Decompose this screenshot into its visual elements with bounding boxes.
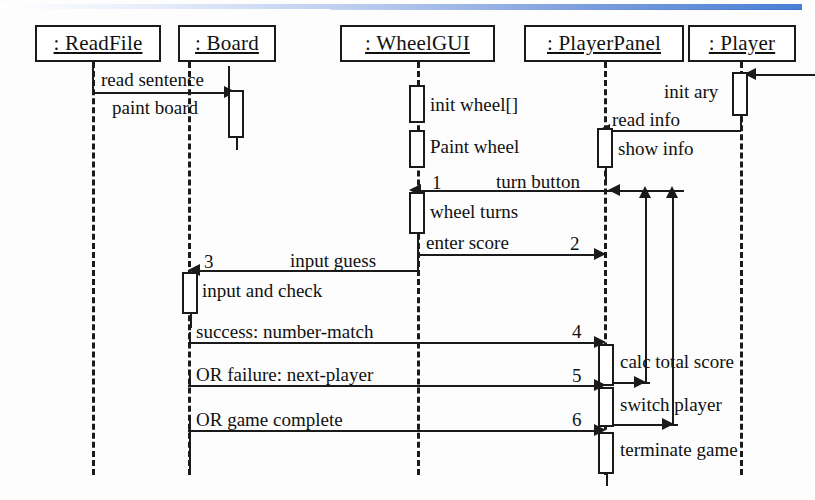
- object-label-wheelgui: : WheelGUI: [365, 33, 470, 54]
- activation-wheelgui-wheel-turns: [409, 192, 425, 234]
- message-arrow-enter-score: [417, 254, 597, 256]
- sequence-number-3: 3: [204, 252, 214, 271]
- message-arrow-or-failure-next-player: [188, 385, 597, 387]
- message-label-read-info: read info: [612, 110, 680, 129]
- message-label-terminate-game: terminate game: [620, 440, 738, 459]
- activation-playerpanel-switch-player: [598, 387, 614, 427]
- arrowhead-up-switch-return: [666, 186, 678, 198]
- readfile-stub-upper: [92, 66, 94, 90]
- activation-playerpanel-terminate-game: [598, 432, 614, 474]
- message-label-init-ary: init ary: [664, 82, 718, 101]
- message-label-paint-wheel: Paint wheel: [430, 137, 519, 156]
- message-label-or-failure-next-player: OR failure: next-player: [196, 365, 373, 384]
- board-msg4-stub: [189, 332, 191, 344]
- message-arrow-init-ary: [756, 74, 815, 76]
- object-label-readfile: : ReadFile: [54, 33, 143, 54]
- sequence-diagram-canvas: : ReadFile : Board : WheelGUI : PlayerPa…: [0, 0, 815, 500]
- message-arrow-paint-board: [92, 92, 226, 94]
- object-label-board: : Board: [195, 33, 259, 54]
- message-label-enter-score: enter score: [426, 233, 509, 252]
- arrowhead-up-calc-return: [639, 186, 651, 198]
- message-label-or-game-complete: OR game complete: [196, 410, 343, 429]
- playerpanel-show-info-tail: [605, 168, 607, 180]
- sequence-number-1: 1: [432, 173, 442, 192]
- object-box-playerpanel[interactable]: : PlayerPanel: [524, 25, 684, 62]
- lifeline-readfile: [92, 62, 95, 475]
- arrowhead-right-enter-score: [594, 248, 606, 260]
- return-arrow-switch-player-shaft: [672, 190, 674, 424]
- object-label-playerpanel: : PlayerPanel: [547, 33, 661, 54]
- sequence-number-2: 2: [570, 234, 580, 253]
- message-label-success-number-match: success: number-match: [196, 322, 373, 341]
- message-label-show-info: show info: [618, 139, 693, 158]
- message-label-input-and-check: input and check: [202, 281, 322, 300]
- sequence-number-4: 4: [572, 322, 582, 341]
- object-box-readfile[interactable]: : ReadFile: [35, 25, 161, 62]
- message-arrow-success-number-match: [188, 342, 597, 344]
- message-label-switch-player: switch player: [620, 395, 722, 414]
- object-label-player: : Player: [709, 33, 775, 54]
- activation-board-paint: [228, 90, 244, 138]
- playerpanel-terminate-tail: [606, 474, 608, 486]
- object-box-player[interactable]: : Player: [688, 25, 796, 62]
- message-label-init-wheel: init wheel[]: [430, 95, 518, 114]
- message-label-wheel-turns: wheel turns: [430, 202, 518, 221]
- slide-accent-line: [330, 9, 802, 10]
- message-label-input-guess: input guess: [290, 251, 376, 270]
- activation-playerpanel-show-info: [597, 128, 613, 168]
- return-arrow-calc-total-score-shaft: [645, 190, 647, 382]
- message-label-read-sentence: read sentence: [101, 70, 204, 89]
- board-input-check-tail: [190, 314, 192, 328]
- activation-board-input-check: [182, 272, 198, 314]
- wheelgui-input-guess-stub: [417, 254, 419, 270]
- sequence-number-6: 6: [572, 410, 582, 429]
- sequence-number-5: 5: [572, 366, 582, 385]
- activation-wheelgui-init: [409, 85, 425, 123]
- board-msg5-stub: [189, 375, 191, 387]
- arrowhead-left-return-join: [608, 184, 620, 196]
- object-box-wheelgui[interactable]: : WheelGUI: [340, 25, 495, 62]
- wheelgui-wheel-turns-tail: [417, 234, 419, 254]
- message-label-turn-button: turn button: [496, 172, 580, 191]
- activation-player-init-ary: [732, 72, 748, 116]
- object-box-board[interactable]: : Board: [178, 25, 276, 62]
- message-arrow-read-info: [606, 130, 741, 132]
- board-lower-run: [189, 430, 191, 475]
- message-label-paint-board: paint board: [112, 98, 198, 117]
- board-activation-tail: [236, 138, 238, 150]
- message-arrow-or-game-complete: [188, 430, 597, 432]
- activation-wheelgui-paint: [409, 130, 425, 168]
- message-label-calc-total-score: calc total score: [620, 352, 734, 371]
- player-activation-tail: [740, 116, 742, 130]
